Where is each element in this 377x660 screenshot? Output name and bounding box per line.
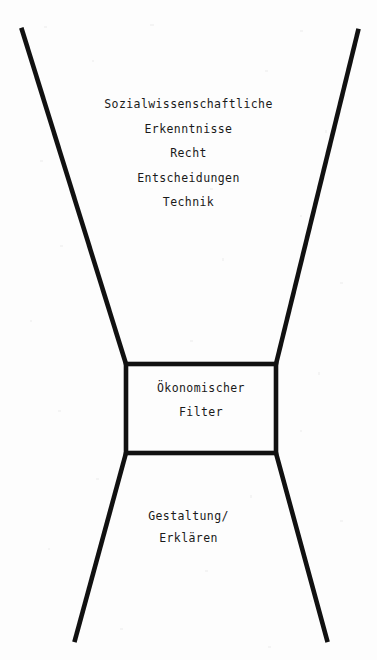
funnel-output-label-group: Gestaltung/ Erklären [0,506,377,549]
input-label-erkenntnisse: Erkenntnisse [0,117,377,142]
filter-label-oekonomischer: Ökonomischer [126,376,276,400]
funnel-input-label-group: Sozialwissenschaftliche Erkenntnisse Rec… [0,92,377,215]
output-label-erklaeren: Erklären [0,528,377,550]
output-label-gestaltung: Gestaltung/ [0,506,377,528]
input-label-recht: Recht [0,141,377,166]
diagram-canvas: Sozialwissenschaftliche Erkenntnisse Rec… [0,0,377,660]
input-label-sozialwissenschaftliche: Sozialwissenschaftliche [0,92,377,117]
filter-label-filter: Filter [126,400,276,424]
input-label-entscheidungen: Entscheidungen [0,166,377,191]
economic-filter-label-group: Ökonomischer Filter [126,376,276,424]
input-label-technik: Technik [0,190,377,215]
